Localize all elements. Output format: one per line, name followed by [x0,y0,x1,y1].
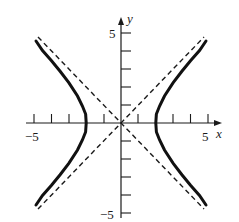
x-min-label: −5 [25,129,39,144]
hyperbola-plot: −5 5 x 5 −5 y [0,0,239,222]
y-min-label: −5 [100,207,114,222]
y-axis-arrow-icon [118,17,124,25]
x-max-label: 5 [202,129,209,144]
y-axis-label: y [125,11,133,26]
x-axis-label: x [215,126,222,141]
y-max-label: 5 [109,26,116,41]
